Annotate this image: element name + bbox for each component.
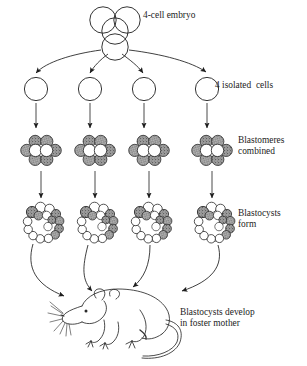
label-four-cell-embryo: 4-cell embryo	[143, 10, 195, 21]
isolated-cell	[78, 77, 101, 100]
label-blastocysts-form: Blastocysts form	[238, 208, 281, 230]
label-isolated-cells: 4 isolated cells	[215, 80, 273, 91]
label-blastomeres-combined: Blastomeres combined	[238, 135, 284, 157]
diagram-background	[0, 0, 307, 366]
label-foster-mother: Blastocysts develop in foster mother	[180, 307, 255, 329]
isolated-cell	[132, 77, 155, 100]
embryo-splitting-diagram	[0, 0, 307, 366]
isolated-cell	[24, 77, 47, 100]
